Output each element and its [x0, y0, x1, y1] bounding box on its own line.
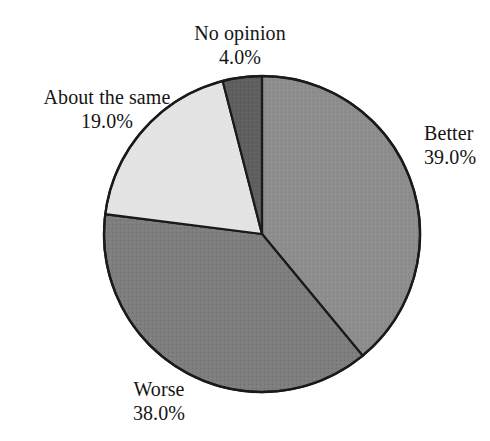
slice-label-no-opinion: No opinion 4.0% — [150, 22, 330, 69]
slice-label-no-opinion-name: No opinion — [150, 22, 330, 46]
slice-label-better: Better 39.0% — [424, 122, 476, 169]
pie-chart-figure: No opinion 4.0% About the same 19.0% Bet… — [0, 0, 490, 441]
slice-label-worse-value: 38.0% — [104, 402, 214, 426]
slice-label-worse-name: Worse — [104, 378, 214, 402]
slice-label-worse: Worse 38.0% — [104, 378, 214, 425]
slice-label-better-value: 39.0% — [424, 146, 476, 170]
slice-label-about-the-same-value: 19.0% — [22, 110, 192, 134]
slice-label-no-opinion-value: 4.0% — [150, 46, 330, 70]
slice-label-about-the-same-name: About the same — [22, 86, 192, 110]
slice-label-better-name: Better — [424, 122, 476, 146]
slice-label-about-the-same: About the same 19.0% — [22, 86, 192, 133]
